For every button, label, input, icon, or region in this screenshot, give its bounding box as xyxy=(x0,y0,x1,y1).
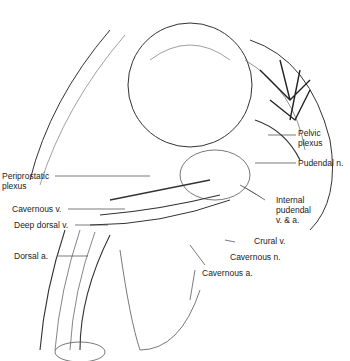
label-crural-vein: Crural v. xyxy=(254,236,286,246)
label-cavernous-artery: Cavernous a. xyxy=(202,268,253,278)
label-cavernous-nerve: Cavernous n. xyxy=(230,252,281,262)
label-cavernous-vein: Cavernous v. xyxy=(12,204,61,214)
label-deep-dorsal-vein: Deep dorsal v. xyxy=(14,220,68,230)
anatomy-figure: Pelvic plexus Pudendal n. Periprostatic … xyxy=(0,0,350,361)
label-pudendal-nerve: Pudendal n. xyxy=(298,158,343,168)
label-periprostatic-plexus: Periprostatic plexus xyxy=(2,171,49,191)
label-dorsal-artery: Dorsal a. xyxy=(14,251,48,261)
label-pelvic-plexus: Pelvic plexus xyxy=(298,128,323,148)
anatomy-illustration xyxy=(0,0,350,361)
label-internal-pudendal: Internal pudendal v. & a. xyxy=(276,195,311,225)
